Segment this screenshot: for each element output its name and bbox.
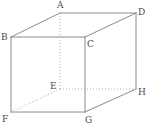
edge-layer: [11, 13, 136, 112]
vertex-label-g: G: [85, 116, 92, 125]
vertex-label-h: H: [138, 88, 146, 97]
edge-A-B: [11, 13, 60, 37]
vertex-label-f: F: [2, 115, 8, 124]
vertex-label-d: D: [138, 8, 145, 17]
edge-E-F: [11, 89, 60, 112]
vertex-label-e: E: [50, 82, 57, 91]
edge-G-H: [85, 89, 136, 112]
vertex-label-b: B: [1, 33, 8, 42]
vertex-label-a: A: [57, 1, 64, 10]
vertex-label-c: C: [87, 40, 94, 49]
cube-svg: [0, 0, 147, 130]
edge-C-D: [85, 13, 136, 37]
cube-diagram: ABCDEFGH: [0, 0, 147, 130]
